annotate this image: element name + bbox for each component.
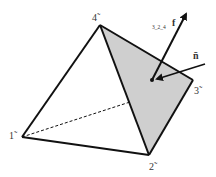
hidden-edge-1-3 (22, 102, 130, 137)
shaded-face-4-3-2 (100, 25, 193, 155)
vertex-label-4: 4̃ (92, 12, 101, 23)
vertex-label-3: 3̃ (194, 85, 203, 96)
vertex-label-2: 2̃ (149, 161, 158, 172)
edge-1-4 (22, 25, 100, 137)
face-vector-symbol: f (172, 17, 176, 28)
edge-1-2 (22, 137, 149, 155)
vertex-label-1: 1̃ (9, 130, 18, 141)
normal-vector-label: n̄ (193, 50, 199, 61)
face-vector-subscript: 3_2_4 (152, 24, 166, 30)
tetrahedron-diagram: 4̃ 3̃ 2̃ 1̃ 3_2_4 f n̄ (0, 0, 216, 177)
